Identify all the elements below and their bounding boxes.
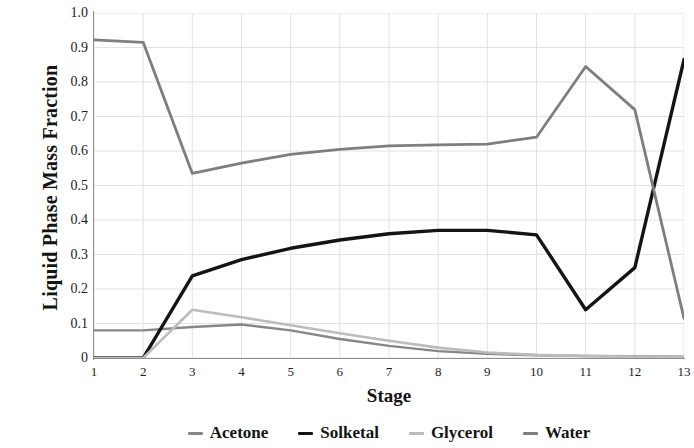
y-axis-tick-labels: 1.00.90.80.70.60.50.40.30.20.10: [48, 0, 88, 370]
chart-legend: AcetoneSolketalGlycerolWater: [94, 420, 684, 446]
y-tick-label: 0: [54, 351, 88, 365]
legend-item-water[interactable]: Water: [523, 423, 590, 443]
legend-line-icon: [298, 432, 313, 435]
x-tick-label: 2: [128, 364, 158, 380]
y-tick-label: 0.5: [54, 179, 88, 193]
x-tick-label: 4: [227, 364, 257, 380]
x-tick-label: 1: [79, 364, 109, 380]
x-tick-label: 13: [669, 364, 694, 380]
y-tick-label: 0.3: [54, 248, 88, 262]
x-tick-label: 12: [620, 364, 650, 380]
legend-line-icon: [409, 432, 424, 435]
y-tick-label: 0.9: [54, 41, 88, 55]
legend-item-solketal[interactable]: Solketal: [298, 423, 379, 443]
y-tick-label: 0.6: [54, 144, 88, 158]
legend-label: Glycerol: [431, 423, 493, 443]
y-tick-label: 0.2: [54, 282, 88, 296]
legend-label: Water: [545, 423, 590, 443]
legend-label: Acetone: [210, 423, 269, 443]
legend-item-glycerol[interactable]: Glycerol: [409, 423, 493, 443]
y-tick-label: 1.0: [54, 6, 88, 20]
x-tick-label: 7: [374, 364, 404, 380]
x-tick-label: 11: [571, 364, 601, 380]
y-tick-label: 0.4: [54, 213, 88, 227]
chart-figure: Liquid Phase Mass Fraction 1.00.90.80.70…: [0, 0, 694, 448]
x-tick-label: 10: [522, 364, 552, 380]
x-tick-label: 6: [325, 364, 355, 380]
series-canvas: [94, 13, 684, 358]
x-tick-label: 9: [472, 364, 502, 380]
y-tick-label: 0.8: [54, 75, 88, 89]
x-tick-label: 3: [177, 364, 207, 380]
legend-line-icon: [523, 432, 538, 435]
x-tick-label: 5: [276, 364, 306, 380]
y-tick-label: 0.1: [54, 317, 88, 331]
legend-item-acetone[interactable]: Acetone: [188, 423, 269, 443]
x-axis-line: [93, 358, 685, 359]
x-axis-tick-labels: 12345678910111213: [94, 364, 694, 384]
x-tick-label: 8: [423, 364, 453, 380]
legend-label: Solketal: [320, 423, 379, 443]
y-tick-label: 0.7: [54, 110, 88, 124]
legend-line-icon: [188, 432, 203, 435]
x-axis-title: Stage: [94, 385, 684, 407]
plot-area: [94, 13, 684, 358]
